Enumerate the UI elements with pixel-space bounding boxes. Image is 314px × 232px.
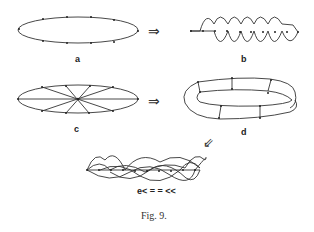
arrow-a-to-b-icon: ⇒ [148,24,160,39]
panel-a-label: a [75,54,81,64]
panel-e-label: e< = = << [137,186,176,196]
figure-9-diagram: a ⇒ b c ⇒ [0,0,314,232]
panel-a: a [18,16,139,64]
panel-c-label: c [74,124,79,134]
figure-caption: Fig. 9. [141,210,167,221]
panel-b-label: b [241,54,247,64]
panel-e: e< = = << [86,156,206,196]
arrow-c-to-d-icon: ⇒ [148,94,160,109]
arrow-d-to-e-icon: ⇙ [203,135,214,150]
panel-d-label: d [241,127,247,137]
panel-b: b [190,17,299,64]
panel-c: c [17,85,139,134]
panel-d: d [184,77,297,137]
